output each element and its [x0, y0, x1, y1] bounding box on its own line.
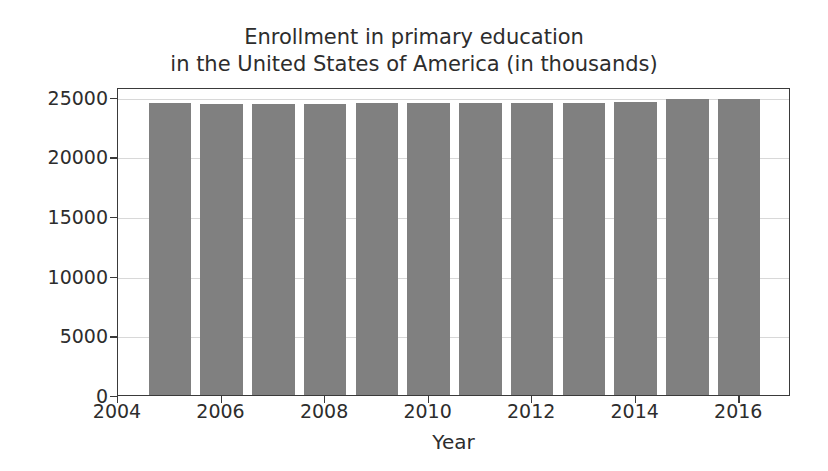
- plot-area: [117, 88, 790, 396]
- bar: [304, 104, 346, 395]
- bar: [563, 103, 605, 395]
- y-axis-tick-mark: [110, 157, 117, 158]
- bar: [459, 103, 501, 395]
- x-axis-tick-label: 2006: [196, 400, 244, 422]
- x-axis-tick-label: 2010: [403, 400, 451, 422]
- chart-title: Enrollment in primary education in the U…: [0, 24, 828, 78]
- x-axis-tick-label: 2012: [507, 400, 555, 422]
- chart-title-line-1: Enrollment in primary education: [0, 24, 828, 51]
- y-axis-tick-mark: [110, 336, 117, 337]
- x-axis-tick-label: 2016: [714, 400, 762, 422]
- y-axis-tick-label: 5000: [8, 327, 108, 346]
- y-axis-tick-label: 20000: [8, 148, 108, 167]
- y-axis-tick-mark: [110, 277, 117, 278]
- chart-title-line-2: in the United States of America (in thou…: [0, 51, 828, 78]
- bar: [718, 99, 760, 395]
- bar: [666, 99, 708, 395]
- bar: [356, 103, 398, 395]
- chart-figure: Enrollment in primary education in the U…: [0, 0, 828, 471]
- x-axis-tick-label: 2004: [93, 400, 141, 422]
- bar: [407, 103, 449, 395]
- bar: [149, 103, 191, 395]
- x-axis-label: Year: [117, 430, 790, 454]
- bar: [252, 104, 294, 395]
- x-axis-tick-labels: 2004200620082010201220142016: [0, 400, 828, 430]
- y-axis-tick-label: 10000: [8, 267, 108, 286]
- x-axis-tick-label: 2014: [611, 400, 659, 422]
- bar: [614, 102, 656, 395]
- bar: [200, 104, 242, 395]
- y-axis-tick-mark: [110, 98, 117, 99]
- y-axis-tick-label: 15000: [8, 207, 108, 226]
- y-axis-tick-label: 25000: [8, 88, 108, 107]
- bar: [511, 103, 553, 395]
- y-axis-tick-mark: [110, 217, 117, 218]
- x-axis-tick-label: 2008: [300, 400, 348, 422]
